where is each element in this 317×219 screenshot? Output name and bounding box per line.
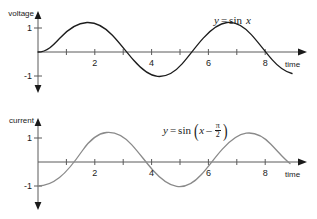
sine-waves-figure: 1 -1 2 4 6 8 voltage time	[0, 0, 317, 219]
current-sine-curve	[38, 132, 290, 186]
voltage-equation-label: y=sinx	[214, 15, 251, 26]
current-x-tick-label-2: 2	[92, 168, 97, 178]
current-y-axis-arrow-down	[35, 202, 42, 210]
voltage-y-tick-label-neg1: -1	[24, 71, 32, 81]
voltage-y-tick-label-1: 1	[27, 23, 32, 33]
current-eq-fraction: π2	[215, 122, 221, 140]
current-eq-frac-numerator: π	[215, 122, 221, 130]
voltage-x-tick-label-4: 4	[149, 58, 154, 68]
current-x-tick-label-8: 8	[263, 168, 268, 178]
voltage-y-axis-arrow-up	[35, 11, 42, 19]
voltage-eq-arg: x	[246, 14, 251, 26]
voltage-x-tick-label-2: 2	[92, 58, 97, 68]
current-eq-y: y	[163, 125, 168, 136]
current-eq-func: sin	[178, 125, 191, 136]
voltage-x-tick-label-8: 8	[263, 58, 268, 68]
current-eq-close-paren: )	[223, 122, 228, 139]
current-equation-label: y=sin(x–π2)	[163, 122, 228, 140]
voltage-sine-curve	[38, 22, 292, 76]
voltage-eq-func: sin	[229, 14, 242, 26]
current-eq-minus: –	[206, 125, 212, 136]
voltage-x-axis-arrow	[298, 49, 307, 56]
voltage-x-tick-label-6: 6	[206, 58, 211, 68]
current-eq-open-paren: (	[194, 122, 199, 139]
current-x-tick-label-6: 6	[206, 168, 211, 178]
current-eq-arg: x	[199, 125, 204, 136]
current-y-axis-arrow-up	[35, 118, 42, 126]
voltage-eq-y: y	[214, 14, 219, 26]
voltage-eq-equals: =	[221, 14, 227, 26]
voltage-y-axis-arrow-down	[35, 85, 42, 93]
voltage-chart: 1 -1 2 4 6 8 voltage time	[8, 9, 307, 93]
current-x-axis-arrow	[298, 159, 307, 166]
plot-svg: 1 -1 2 4 6 8 voltage time	[0, 0, 317, 219]
voltage-x-axis-label: time	[285, 60, 301, 69]
current-eq-frac-denominator: 2	[215, 130, 221, 139]
voltage-y-axis-label: voltage	[8, 9, 34, 18]
current-x-axis-label: time	[285, 170, 301, 179]
current-chart: 1 -1 2 4 6 8 current time	[9, 116, 307, 210]
current-eq-equals: =	[170, 125, 176, 136]
current-y-tick-label-1: 1	[27, 133, 32, 143]
current-x-tick-label-4: 4	[149, 168, 154, 178]
current-y-tick-label-neg1: -1	[24, 181, 32, 191]
current-y-axis-label: current	[9, 116, 35, 125]
